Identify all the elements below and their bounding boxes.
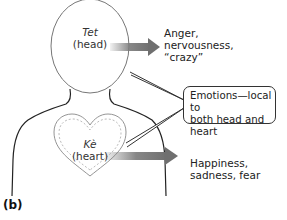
heart-label: Kè (heart) <box>68 138 112 162</box>
head-emotions-text: Anger, nervousness, “crazy” <box>164 27 234 63</box>
heart-term: Kè <box>68 138 112 150</box>
panel-label: (b) <box>3 198 23 212</box>
heart-emotion-line: Happiness, <box>190 157 260 169</box>
callout-line: both head and heart <box>190 114 272 138</box>
heart-gloss: (heart) <box>72 150 108 162</box>
head-emotion-line: Anger, <box>164 27 234 39</box>
head-emotion-line: “crazy” <box>164 51 234 63</box>
emotion-location-diagram: Tet (head) Kè (heart) Anger, nervousness… <box>0 0 287 220</box>
head-label: Tet (head) <box>70 26 110 50</box>
head-arrow <box>110 43 150 51</box>
callout-line: Emotions—local to <box>190 90 272 114</box>
heart-arrow <box>105 152 167 160</box>
emotion-callout-box: Emotions—local to both head and heart <box>183 86 276 124</box>
head-term: Tet <box>70 26 110 38</box>
heart-emotions-text: Happiness, sadness, fear <box>190 157 260 181</box>
head-emotion-line: nervousness, <box>164 39 234 51</box>
heart-emotion-line: sadness, fear <box>190 169 260 181</box>
head-gloss: (head) <box>73 38 107 50</box>
